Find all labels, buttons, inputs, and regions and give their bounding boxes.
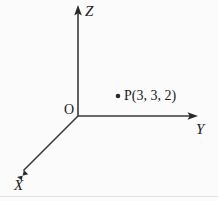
axes-drawing [0,0,218,201]
z-axis-label: Z [85,4,93,19]
x-axis [17,116,78,180]
x-axis-line [24,116,79,171]
z-axis [74,5,82,116]
bottom-edge-rule [0,196,218,197]
point-p-label: P(3, 3, 2) [124,89,176,103]
coordinate-axes-figure: Z Y X O P(3, 3, 2) [0,0,218,201]
y-axis [78,112,198,120]
y-axis-label: Y [196,122,204,137]
point-p-marker [116,94,121,99]
origin-label: O [64,103,74,117]
x-axis-label: X [14,178,23,193]
